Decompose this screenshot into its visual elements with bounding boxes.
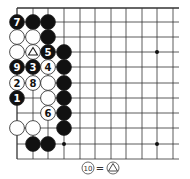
black-stone: 1 [10,91,25,106]
white-stone [41,76,56,91]
black-stone: 7 [10,15,25,30]
move-number: 5 [45,47,52,58]
move-number: 6 [45,108,52,119]
star-point-icon [62,142,66,146]
black-stone [57,121,72,136]
white-stone [10,45,25,60]
black-stone [57,76,72,91]
black-stone: 3 [26,60,41,75]
black-stone [57,45,72,60]
white-stone [10,121,25,136]
white-stone [26,30,41,45]
black-stone [41,30,56,45]
black-stone: 9 [10,60,25,75]
caption-move: 10 [84,165,93,173]
star-point-icon [155,142,159,146]
black-stone [26,137,41,152]
move-number: 9 [14,62,21,73]
move-number: 1 [14,93,21,104]
move-number: 7 [14,17,21,28]
go-board: 759342816 10 = [0,0,190,179]
move-number: 4 [45,62,52,73]
white-stone: 6 [41,106,56,121]
white-stone: 8 [26,76,41,91]
black-stone [41,137,56,152]
black-stone [41,15,56,30]
white-stone: 4 [41,60,56,75]
move-number: 8 [30,78,37,89]
black-stone [57,91,72,106]
star-point-icon [155,50,159,54]
white-stone [10,30,25,45]
black-stone [57,60,72,75]
caption-equals: = [96,163,104,174]
black-stone [57,106,72,121]
white-stone [41,91,56,106]
black-stone [26,15,41,30]
black-stone: 5 [41,45,56,60]
caption: 10 = [82,162,119,174]
white-stone [26,45,41,60]
white-stone [26,121,41,136]
stones: 759342816 [10,15,72,152]
move-number: 2 [14,78,21,89]
move-number: 3 [30,62,37,73]
white-stone: 2 [10,76,25,91]
